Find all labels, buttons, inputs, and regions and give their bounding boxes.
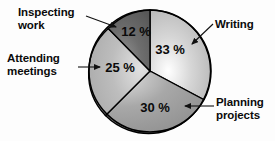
pie-label-attending-meetings: Attending meetings	[7, 52, 60, 77]
pie-label-inspecting-work: Inspecting work	[18, 6, 75, 31]
pie-value-writing: 33 %	[155, 42, 185, 57]
pie-value-inspecting-work: 12 %	[121, 24, 151, 39]
leader-line-inspecting-work	[86, 16, 116, 27]
pie-label-writing: Writing	[215, 18, 254, 31]
pie-chart-figure: 33 % 30 % 25 % 12 % Inspecting work Atte…	[0, 0, 275, 141]
pie-value-attending-meetings: 25 %	[105, 60, 135, 75]
pie-label-planning-projects: Planning projects	[216, 96, 264, 121]
pie-value-planning-projects: 30 %	[140, 100, 170, 115]
